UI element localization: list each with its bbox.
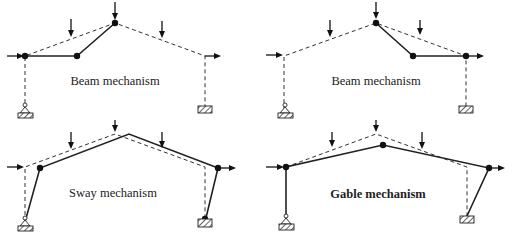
pinned-support-icon xyxy=(18,103,33,118)
deformed-frame xyxy=(25,134,218,222)
plastic-hinge xyxy=(37,165,43,171)
load-arrow-right-icon xyxy=(218,165,236,171)
panel-beam-mechanism-right: Beam mechanism xyxy=(266,2,484,118)
fixed-support-icon xyxy=(198,106,212,113)
load-arrow-down-icon xyxy=(419,132,425,149)
deformed-frame xyxy=(286,145,489,219)
load-arrow-right-icon xyxy=(205,53,221,59)
original-frame xyxy=(284,23,466,110)
plastic-hinge xyxy=(380,142,386,148)
load-arrow-down-icon xyxy=(373,120,379,132)
panel-gable-mechanism: Gable mechanism xyxy=(266,120,505,230)
pinned-support-icon xyxy=(18,216,33,231)
plastic-hinge xyxy=(373,20,379,26)
load-arrow-down-icon xyxy=(417,20,423,35)
mechanism-label: Sway mechanism xyxy=(69,186,157,200)
load-arrow-down-icon xyxy=(327,20,333,37)
panel-sway-mechanism: Sway mechanism xyxy=(7,120,236,231)
load-arrow-right-icon xyxy=(266,164,284,170)
load-arrow-down-icon xyxy=(68,19,74,37)
load-arrow-down-icon xyxy=(159,21,165,38)
panel-beam-mechanism-left: Beam mechanism xyxy=(7,2,221,118)
plastic-hinge xyxy=(410,53,416,59)
plastic-hinge xyxy=(112,20,118,26)
fixed-support-icon xyxy=(198,216,212,227)
load-arrow-right-icon xyxy=(266,52,283,58)
load-arrow-down-icon xyxy=(68,132,74,149)
mechanism-label: Gable mechanism xyxy=(330,187,426,201)
fixed-support-icon xyxy=(459,106,473,113)
load-arrow-down-icon xyxy=(112,2,118,20)
load-arrow-right-icon xyxy=(7,164,24,170)
mechanism-diagram: Beam mechanism Beam mechanis xyxy=(0,0,512,243)
plastic-hinge xyxy=(74,53,80,59)
load-arrow-down-icon xyxy=(373,2,379,19)
load-arrow-down-icon xyxy=(329,132,335,147)
load-arrow-right-icon xyxy=(466,53,484,59)
original-frame xyxy=(25,134,205,222)
load-arrow-down-icon xyxy=(112,120,118,132)
pinned-support-icon xyxy=(279,214,294,230)
mechanism-label: Beam mechanism xyxy=(331,74,420,88)
pinned-support-icon xyxy=(278,103,293,118)
mechanism-label: Beam mechanism xyxy=(70,74,159,88)
load-arrow-right-icon xyxy=(7,53,24,59)
fixed-support-icon xyxy=(460,216,474,223)
original-frame xyxy=(25,23,205,110)
